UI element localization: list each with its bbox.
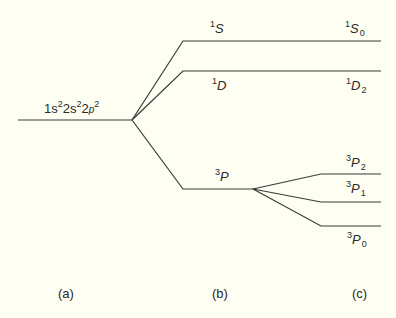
- term-1S-label: 1S: [210, 20, 224, 35]
- level-1S0-label: 1S0: [345, 20, 365, 38]
- level-3P1-label: 3P1: [346, 180, 366, 198]
- term-1D-label: 1D: [212, 77, 226, 92]
- level-1D2-label: 1D2: [346, 77, 366, 95]
- column-label-a: (a): [58, 287, 74, 300]
- level-3P0-label: 3P0: [347, 231, 367, 249]
- level-3P2-label: 3P2: [346, 154, 366, 172]
- configuration-label: 1s22s22p2: [44, 100, 99, 115]
- column-label-b: (b): [212, 287, 228, 300]
- term-1S-line: [132, 41, 381, 120]
- term-1D-line: [132, 71, 381, 120]
- energy-level-lines: [0, 0, 396, 318]
- column-label-c: (c): [352, 287, 367, 300]
- term-3P-line: [132, 120, 253, 189]
- term-3P-label: 3P: [215, 168, 229, 183]
